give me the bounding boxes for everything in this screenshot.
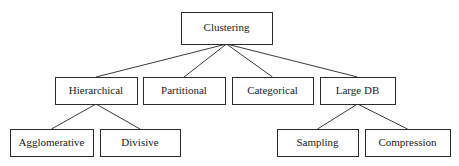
nodes-layer: ClusteringHierarchicalPartitionalCategor… xyxy=(11,13,451,157)
tree-node-partitional[interactable]: Partitional xyxy=(144,78,226,105)
tree-edge-clustering-to-large-db xyxy=(227,44,358,77)
node-label-compression: Compression xyxy=(378,136,437,148)
clustering-taxonomy-diagram: ClusteringHierarchicalPartitionalCategor… xyxy=(0,0,459,166)
tree-node-sampling[interactable]: Sampling xyxy=(278,130,359,157)
tree-node-agglomerative[interactable]: Agglomerative xyxy=(11,130,94,157)
node-label-categorical: Categorical xyxy=(247,84,298,96)
tree-edge-large-db-to-compression xyxy=(358,104,408,129)
node-label-large-db: Large DB xyxy=(336,84,379,96)
node-label-hierarchical: Hierarchical xyxy=(69,84,123,96)
node-label-divisive: Divisive xyxy=(121,136,158,148)
node-label-partitional: Partitional xyxy=(161,84,207,96)
tree-edge-clustering-to-hierarchical xyxy=(96,44,227,77)
node-label-sampling: Sampling xyxy=(296,136,339,148)
tree-edge-large-db-to-sampling xyxy=(318,104,358,129)
tree-node-compression[interactable]: Compression xyxy=(366,130,451,157)
tree-edge-clustering-to-categorical xyxy=(227,44,273,77)
tree-edge-hierarchical-to-divisive xyxy=(96,104,140,129)
tree-edge-hierarchical-to-agglomerative xyxy=(52,104,97,129)
node-label-clustering: Clustering xyxy=(204,21,250,33)
tree-node-large-db[interactable]: Large DB xyxy=(321,78,396,105)
tree-node-clustering[interactable]: Clustering xyxy=(182,13,273,45)
taxonomy-tree-canvas: ClusteringHierarchicalPartitionalCategor… xyxy=(0,0,459,166)
tree-node-hierarchical[interactable]: Hierarchical xyxy=(56,78,138,105)
tree-node-categorical[interactable]: Categorical xyxy=(233,78,314,105)
tree-node-divisive[interactable]: Divisive xyxy=(101,130,181,157)
node-label-agglomerative: Agglomerative xyxy=(19,136,85,148)
